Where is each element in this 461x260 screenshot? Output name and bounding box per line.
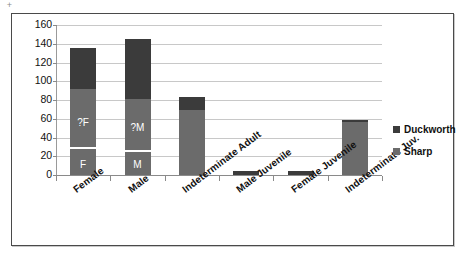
bar-female[interactable]: ?FF (70, 48, 96, 175)
chart-legend: DuckworthSharp (393, 124, 453, 168)
bar-indeterminate-adult[interactable] (179, 97, 205, 175)
y-tick-mark-140 (53, 44, 57, 45)
x-tick-3 (219, 176, 220, 181)
gridline-60 (56, 119, 382, 120)
gridline-140 (56, 44, 382, 45)
legend-item-duckworth[interactable]: Duckworth (393, 124, 453, 135)
legend-label: Sharp (404, 146, 432, 157)
y-tick-label-20: 20 (18, 149, 52, 161)
bar-annotation-qF: ?F (70, 117, 96, 128)
bar-male-juvenile[interactable] (233, 171, 259, 175)
bar-segment-sharp[interactable] (342, 122, 368, 175)
y-tick-label-80: 80 (18, 93, 52, 105)
x-tick-4 (273, 176, 274, 181)
chart-frame: 160140120100806040200 ?FF?MM FemaleMaleI… (11, 13, 454, 246)
legend-label: Duckworth (404, 124, 456, 135)
bar-segment-duckworth[interactable] (288, 171, 314, 175)
x-tick-end (382, 176, 383, 181)
y-tick-label-60: 60 (18, 112, 52, 124)
gridline-120 (56, 63, 382, 64)
x-tick-2 (165, 176, 166, 181)
y-tick-mark-0 (53, 175, 57, 176)
gridline-80 (56, 100, 382, 101)
y-tick-mark-120 (53, 63, 57, 64)
legend-swatch-icon (393, 148, 400, 155)
x-tick-5 (328, 176, 329, 181)
category-axis-ticks (56, 176, 383, 182)
y-tick-label-120: 120 (18, 56, 52, 68)
y-tick-mark-160 (53, 25, 57, 26)
bar-female-juvenile[interactable] (288, 171, 314, 175)
y-tick-mark-80 (53, 100, 57, 101)
bar-segment-sharp[interactable] (179, 110, 205, 175)
bar-annotation-M: M (125, 159, 151, 170)
bar-annotation-qM: ?M (125, 122, 151, 133)
y-tick-label-40: 40 (18, 131, 52, 143)
bar-segment-duckworth[interactable] (125, 39, 151, 99)
bar-segment-duckworth[interactable] (342, 120, 368, 122)
gridline-100 (56, 81, 382, 82)
y-tick-mark-40 (53, 138, 57, 139)
bar-segment-duckworth[interactable] (179, 97, 205, 110)
y-tick-mark-60 (53, 119, 57, 120)
bar-annotation-F: F (70, 159, 96, 170)
y-tick-label-0: 0 (18, 168, 52, 180)
y-tick-label-160: 160 (18, 18, 52, 30)
bar-segment-duckworth[interactable] (233, 171, 259, 175)
y-tick-label-140: 140 (18, 37, 52, 49)
x-tick-0 (56, 176, 57, 181)
y-tick-mark-20 (53, 156, 57, 157)
scan-artifact: + (6, 2, 13, 9)
plot-area: ?FF?MM (56, 25, 382, 175)
y-axis-tick-labels: 160140120100806040200 (12, 25, 52, 175)
gridline-160 (56, 25, 382, 26)
bar-segment-duckworth[interactable] (70, 48, 96, 88)
y-tick-label-100: 100 (18, 74, 52, 86)
legend-item-sharp[interactable]: Sharp (393, 146, 453, 157)
bar-male[interactable]: ?MM (125, 39, 151, 175)
bar-internal-separator (70, 147, 96, 149)
x-tick-1 (110, 176, 111, 181)
gridline-40 (56, 138, 382, 139)
gridline-20 (56, 156, 382, 157)
y-tick-mark-100 (53, 81, 57, 82)
legend-swatch-icon (393, 126, 400, 133)
bar-indeterminate-juv[interactable] (342, 120, 368, 175)
bar-internal-separator (125, 150, 151, 152)
